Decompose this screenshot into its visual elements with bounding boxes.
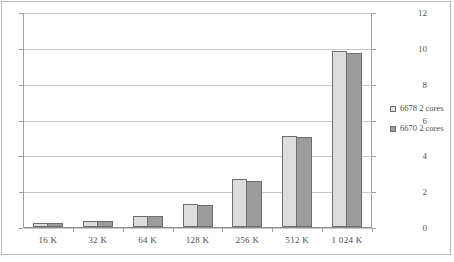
- secondary-y-axis-tick: [372, 85, 376, 86]
- legend-item-series-b[interactable]: 6670 2 cores: [390, 124, 452, 133]
- y-axis-tick-label: 8: [423, 81, 428, 90]
- y-axis-tick: [19, 192, 23, 193]
- y-axis-tick: [19, 85, 23, 86]
- gridline: [24, 13, 372, 14]
- bar[interactable]: [98, 221, 113, 227]
- bar[interactable]: [48, 223, 63, 227]
- gridline: [24, 85, 372, 86]
- legend-label-series-b: 6670 2 cores: [400, 124, 443, 133]
- bar[interactable]: [232, 179, 247, 227]
- bar-group: [183, 204, 213, 227]
- bar-group: [332, 51, 362, 227]
- gridline: [24, 156, 372, 157]
- gridline: [24, 228, 372, 229]
- plot-area: [23, 13, 372, 228]
- bar-group: [33, 223, 63, 227]
- legend-label-series-a: 6678 2 cores: [400, 104, 443, 113]
- y-axis-tick: [19, 49, 23, 50]
- x-axis-tick: [173, 228, 174, 232]
- bar-group: [282, 136, 312, 227]
- x-axis-tick: [73, 228, 74, 232]
- x-axis-tick: [123, 228, 124, 232]
- bar-chart-figure: 024681012 16 K32 K64 K128 K256 K512 K1 0…: [0, 0, 454, 262]
- bar[interactable]: [33, 223, 48, 227]
- y-axis-tick-label: 10: [418, 45, 427, 54]
- bar[interactable]: [133, 216, 148, 227]
- bar[interactable]: [183, 204, 198, 227]
- x-axis-tick: [322, 228, 323, 232]
- legend-item-series-a[interactable]: 6678 2 cores: [390, 104, 452, 113]
- secondary-y-axis-tick: [372, 156, 376, 157]
- secondary-y-axis-tick: [372, 121, 376, 122]
- gridline: [24, 49, 372, 50]
- bar[interactable]: [347, 53, 362, 227]
- y-axis-tick: [19, 121, 23, 122]
- x-axis-tick-label: 1 024 K: [317, 235, 377, 245]
- bar[interactable]: [282, 136, 297, 227]
- y-axis-tick: [19, 228, 23, 229]
- legend-swatch-icon-series-a: [390, 106, 396, 112]
- x-axis-tick: [272, 228, 273, 232]
- secondary-y-axis-tick: [372, 192, 376, 193]
- secondary-y-axis-tick: [372, 49, 376, 50]
- x-axis-tick: [372, 228, 373, 232]
- legend-swatch-icon-series-b: [390, 126, 396, 132]
- bar[interactable]: [332, 51, 347, 227]
- chart-legend: 6678 2 cores 6670 2 cores: [390, 104, 452, 144]
- secondary-y-axis-tick: [372, 13, 376, 14]
- y-axis-tick-label: 2: [423, 188, 428, 197]
- bar[interactable]: [198, 205, 213, 227]
- bar[interactable]: [297, 137, 312, 227]
- bar[interactable]: [247, 181, 262, 227]
- bar[interactable]: [148, 216, 163, 227]
- gridline: [24, 192, 372, 193]
- bar-group: [83, 221, 113, 227]
- bar-group: [232, 179, 262, 227]
- y-axis-tick-label: 12: [418, 9, 427, 18]
- y-axis-tick: [19, 156, 23, 157]
- bar[interactable]: [83, 221, 98, 227]
- y-axis-tick-label: 0: [423, 224, 428, 233]
- y-axis-tick: [19, 13, 23, 14]
- y-axis-tick-label: 4: [423, 152, 428, 161]
- x-axis-tick: [222, 228, 223, 232]
- bar-group: [133, 216, 163, 227]
- gridline: [24, 121, 372, 122]
